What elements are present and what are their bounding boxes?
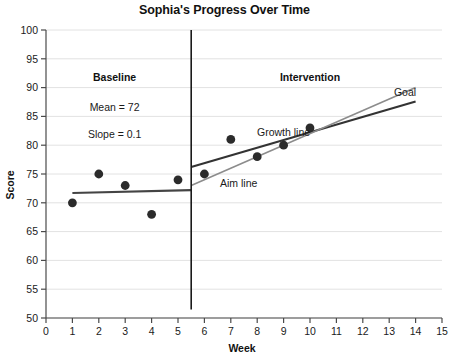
- chart-container: Sophia's Progress Over Time 505560657075…: [0, 0, 449, 356]
- x-tick-label: 9: [281, 325, 287, 337]
- x-tick-label: 12: [357, 325, 369, 337]
- y-tick-label: 70: [26, 197, 38, 209]
- intervention-phase-heading: Intervention: [280, 71, 340, 83]
- annotations: BaselineMean = 72Slope = 0.1Intervention…: [88, 71, 416, 189]
- baseline-trend-line: [72, 190, 191, 193]
- x-tick-label: 6: [201, 325, 207, 337]
- data-point: [174, 175, 183, 184]
- y-tick-label: 95: [26, 53, 38, 65]
- data-point: [279, 141, 288, 150]
- x-tick-label: 1: [69, 325, 75, 337]
- y-tick-label: 65: [26, 225, 38, 237]
- y-axis: 50556065707580859095100: [20, 24, 46, 324]
- data-point: [94, 170, 103, 179]
- x-tick-label: 5: [175, 325, 181, 337]
- y-axis-title: Score: [4, 170, 16, 199]
- data-point: [200, 170, 209, 179]
- x-tick-label: 8: [254, 325, 260, 337]
- x-tick-label: 2: [96, 325, 102, 337]
- data-point: [147, 210, 156, 219]
- data-point: [68, 198, 77, 207]
- progress-scatter-chart: 50556065707580859095100 0123456789101112…: [0, 0, 449, 356]
- data-point: [121, 181, 130, 190]
- x-tick-label: 11: [331, 325, 342, 337]
- y-tick-label: 90: [26, 81, 38, 93]
- y-tick-label: 75: [26, 168, 38, 180]
- x-tick-label: 4: [149, 325, 155, 337]
- x-tick-label: 10: [304, 325, 316, 337]
- x-tick-label: 13: [383, 325, 395, 337]
- x-axis-title: Week: [228, 342, 255, 354]
- growth-line-label: Growth line: [257, 126, 310, 138]
- baseline-phase-heading: Baseline: [93, 71, 136, 83]
- x-tick-label: 3: [122, 325, 128, 337]
- x-tick-label: 7: [228, 325, 234, 337]
- goal-label: Goal: [394, 86, 416, 98]
- baseline-slope: Slope = 0.1: [88, 128, 142, 140]
- x-axis: 0123456789101112131415: [43, 318, 448, 337]
- y-tick-label: 85: [26, 110, 38, 122]
- y-tick-label: 80: [26, 139, 38, 151]
- data-point: [253, 152, 262, 161]
- x-tick-label: 15: [436, 325, 448, 337]
- baseline-mean: Mean = 72: [90, 101, 140, 113]
- aim-line-label: Aim line: [220, 177, 258, 189]
- x-tick-label: 14: [410, 325, 422, 337]
- y-tick-label: 50: [26, 312, 38, 324]
- data-point: [226, 135, 235, 144]
- y-tick-label: 60: [26, 254, 38, 266]
- y-tick-label: 55: [26, 283, 38, 295]
- y-tick-label: 100: [20, 24, 38, 36]
- x-tick-label: 0: [43, 325, 49, 337]
